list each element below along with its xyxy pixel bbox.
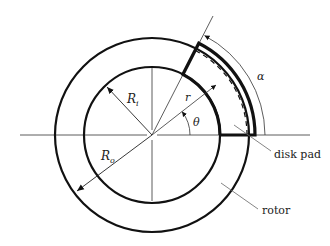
diagram-canvas: α r θ Ri Ro disk pad rotor <box>0 0 330 246</box>
r-label: r <box>185 91 191 104</box>
r-inner-label: Ri <box>126 92 139 108</box>
alpha-label: α <box>257 70 265 83</box>
r-arrow <box>152 85 216 135</box>
r-outer-label: Ro <box>100 149 115 165</box>
theta-label: θ <box>193 116 200 129</box>
disk-pad-leader <box>234 125 271 151</box>
theta-angle-arc <box>182 112 190 135</box>
brake-diagram: α r θ Ri Ro disk pad rotor <box>0 0 330 246</box>
disk-pad-label: disk pad <box>274 148 321 161</box>
rotor-label: rotor <box>262 204 291 217</box>
